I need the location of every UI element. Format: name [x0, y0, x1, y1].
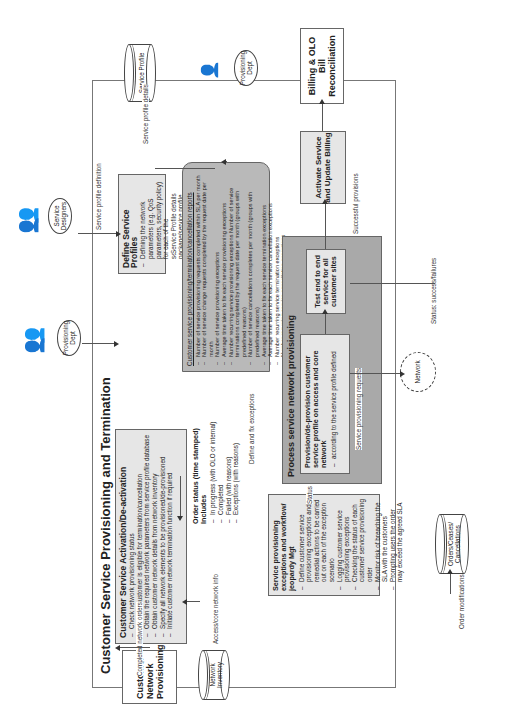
- billing-box: Billing & OLO Bill Reconciliation: [300, 28, 344, 104]
- label-status-success-failures: Status: success/failures: [430, 258, 437, 324]
- reports-list: Number of service provisioning requests …: [195, 168, 287, 366]
- activate-box: Activate Service and Update Billing: [300, 131, 346, 204]
- diagram-canvas: Customer Service Provisioning and Termin…: [0, 0, 508, 704]
- people-icon-provisioning: 👥: [20, 327, 46, 354]
- provision-title: Provision/de-provision customer service …: [304, 340, 329, 468]
- connector-orders-to-activation: [180, 476, 181, 516]
- activation-box: Customer Service Activation/De-activatio…: [115, 429, 187, 644]
- network-cloud: Network: [400, 352, 436, 392]
- provision-box: Provision/de-provision customer service …: [300, 334, 350, 474]
- exceptions-title: Service provisioning exceptions and work…: [272, 499, 297, 591]
- label-completed-network-orders: Completed network orders: [136, 602, 143, 676]
- people-icon-designers: 👥: [14, 207, 40, 234]
- person-icon: 👤: [200, 60, 219, 80]
- billing-label: Billing & OLO Bill Reconciliation: [307, 29, 337, 103]
- connector-completed-orders: [120, 647, 150, 648]
- label-service-profile-details: Service Profile details: [170, 193, 177, 254]
- diagram-title: Customer Service Provisioning and Termin…: [98, 377, 113, 674]
- connector-status-loop: [350, 283, 435, 284]
- connector-access-core-info: [187, 601, 200, 602]
- label-access-core-network-info: Access/core network info: [212, 574, 219, 644]
- reports-title: Customer service provisioning/terminatio…: [186, 168, 194, 366]
- connector-reports-to-provisioning: [226, 161, 227, 162]
- order-status-block: Order status (time stamped) Includes In …: [192, 414, 240, 524]
- label-order-modifications: Order modifications: [458, 574, 465, 629]
- label-status: Status: [306, 486, 313, 504]
- define-profiles-box: Define Service Profiles Defining the net…: [118, 174, 166, 274]
- label-service-profile-details-top: Service profile details: [142, 84, 149, 144]
- connector-provisioning-to-activation: [82, 343, 114, 344]
- order-status-subtitle: Includes: [200, 414, 208, 524]
- network-inventory-db: Network Inventory: [198, 650, 230, 700]
- define-profiles-list: Defining the network parameters (e.g. Qo…: [139, 180, 185, 268]
- actor-provisioning-dept-left: Provisioning Dept: [57, 320, 81, 356]
- connector-order-modifications: [450, 574, 451, 594]
- activate-label: Activate Service and Update Billing: [314, 132, 333, 203]
- label-service-profile-definition: Service profile definition: [95, 163, 102, 230]
- label-define-fix-exceptions: Define and fix exceptions: [248, 394, 255, 464]
- actor-service-designers: Service Designers: [48, 198, 72, 234]
- test-box: Test end to end service for all customer…: [306, 249, 346, 314]
- connector-provision-to-test: [325, 314, 326, 334]
- process-network-title: Process service network provisioning: [287, 243, 295, 477]
- test-label: Test end to end service for all customer…: [314, 254, 339, 309]
- actor-provisioning-dept-top: Provisioning Dept: [234, 50, 258, 86]
- exceptions-box: Service provisioning exceptions and work…: [268, 494, 380, 596]
- connector-activate-to-billing: [322, 104, 323, 131]
- exceptions-list: Define customer service provisioning exc…: [298, 499, 404, 591]
- reports-box: Customer service provisioning/terminatio…: [182, 162, 270, 372]
- connector-to-network: [350, 373, 400, 374]
- connector-test-to-activate: [325, 204, 326, 249]
- order-status-list: In progress (with OLO or internal) Compl…: [209, 414, 239, 524]
- define-profiles-title: Define Service Profiles: [122, 180, 138, 268]
- orders-db: Orders/Ceases/ Cancellations: [435, 514, 469, 574]
- activation-title: Customer Service Activation/De-activatio…: [119, 435, 127, 638]
- connector-service-profile: [155, 168, 215, 169]
- label-successful-provisions: Successful provisions: [352, 173, 359, 234]
- label-service-provisioning-requests: Service provisioning requests: [355, 368, 362, 450]
- customer-network-provisioning-box: Customer Network Provisioning: [122, 650, 177, 704]
- connector-profile-definition: [78, 233, 116, 234]
- service-profile-db: Service Profile: [124, 44, 156, 102]
